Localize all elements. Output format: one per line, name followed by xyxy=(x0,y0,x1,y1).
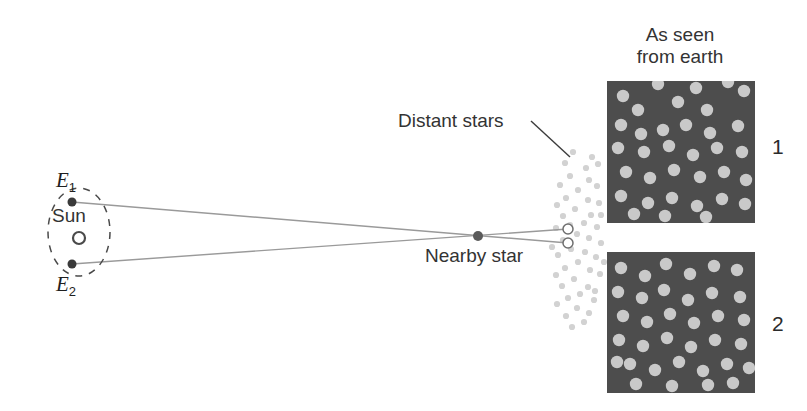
panel-star xyxy=(694,171,706,183)
panel-star xyxy=(636,292,648,304)
apparent-position-2-circle xyxy=(563,238,573,248)
panel-star xyxy=(743,362,755,374)
panel-star xyxy=(712,310,724,322)
panel-1-number-label: 1 xyxy=(772,135,784,159)
apparent-position-1-circle xyxy=(563,224,573,234)
panel-star xyxy=(617,90,629,102)
panel-star xyxy=(687,149,699,161)
panel-star xyxy=(649,364,661,376)
distant-star-dot xyxy=(567,173,573,179)
distant-star-dot xyxy=(593,254,599,260)
distant-star-dot xyxy=(554,202,560,208)
distant-star-dot xyxy=(581,220,587,226)
distant-star-dot xyxy=(595,161,601,167)
distant-star-dot xyxy=(596,200,602,206)
panel-star xyxy=(661,332,673,344)
distant-star-dot xyxy=(586,177,592,183)
panel-star xyxy=(632,104,644,116)
distant-star-dot xyxy=(592,288,598,294)
panel-star xyxy=(690,82,702,94)
distant-star-dot xyxy=(549,244,555,250)
panel-star xyxy=(731,264,743,276)
distant-star-dot xyxy=(587,267,593,273)
distant-star-dot xyxy=(601,259,607,265)
panel-star xyxy=(732,120,744,132)
panel-star xyxy=(684,268,696,280)
distant-star-dot xyxy=(559,283,565,289)
panel-star xyxy=(624,358,636,370)
distant-star-dot xyxy=(562,160,568,166)
nearby-star-label: Nearby star xyxy=(425,245,523,267)
panel-star xyxy=(658,284,670,296)
distant-star-dot xyxy=(555,252,561,258)
distant-star-dot xyxy=(589,154,595,160)
distant-star-dot xyxy=(597,271,603,277)
distant-star-dot xyxy=(562,265,568,271)
panel-star xyxy=(630,378,642,390)
earth-position-1-subscript: 1 xyxy=(69,180,76,195)
distant-star-dot xyxy=(565,295,571,301)
panel-star xyxy=(628,208,640,220)
panel-star xyxy=(612,142,624,154)
distant-star-dot xyxy=(569,324,575,330)
distant-star-dot xyxy=(572,206,578,212)
panel-star xyxy=(691,200,703,212)
panel-star xyxy=(740,174,752,186)
panel-star xyxy=(659,210,671,222)
panel-star xyxy=(722,76,734,88)
panel-star xyxy=(697,365,709,377)
panel-star xyxy=(738,314,750,326)
distant-star-dot xyxy=(598,240,604,246)
parallax-diagram-figure: As seen from earth Distant stars Nearby … xyxy=(0,0,807,411)
distant-star-dot xyxy=(554,301,560,307)
sun-marker xyxy=(73,232,85,244)
panel-star xyxy=(663,140,675,152)
distant-star-dot xyxy=(557,182,563,188)
distant-star-dot xyxy=(598,212,604,218)
panel-star xyxy=(708,260,720,272)
distant-star-dot xyxy=(560,213,566,219)
panel-star xyxy=(711,142,723,154)
earth-position-2-subscript: 2 xyxy=(69,284,76,299)
panel-star xyxy=(736,146,748,158)
distant-star-dot xyxy=(582,249,588,255)
distant-star-dot xyxy=(563,313,569,319)
nearby-star-dot xyxy=(473,231,483,241)
distant-star-dot xyxy=(585,284,591,290)
panel-star xyxy=(644,172,656,184)
distant-star-dot xyxy=(586,235,592,241)
distant-star-dot xyxy=(563,195,569,201)
distant-star-dot xyxy=(574,305,580,311)
distant-star-dot xyxy=(588,212,594,218)
panel-star xyxy=(635,128,647,140)
distant-star-dot xyxy=(583,165,589,171)
as-seen-from-earth-label: As seen from earth xyxy=(600,24,760,69)
panel-2-number-label: 2 xyxy=(772,312,784,336)
panel-1 xyxy=(607,76,755,223)
distant-star-dot xyxy=(581,319,587,325)
panel-star xyxy=(682,294,694,306)
panel-star xyxy=(613,334,625,346)
panel-star xyxy=(638,146,650,158)
distant-stars-leader-line xyxy=(531,121,570,157)
panel-star xyxy=(704,127,716,139)
sky-view-panels-group xyxy=(607,76,755,393)
panel-star xyxy=(734,291,746,303)
distant-stars-field xyxy=(549,149,607,330)
earth-position-2-dot xyxy=(68,260,77,269)
panel-star xyxy=(738,85,750,97)
panel-star xyxy=(615,119,627,131)
distant-star-dot xyxy=(570,149,576,155)
distant-star-dot xyxy=(571,276,577,282)
panel-star xyxy=(660,258,672,270)
panel-star xyxy=(652,78,664,90)
panel-star xyxy=(709,334,721,346)
panel-star xyxy=(611,356,623,368)
panel-star xyxy=(701,104,713,116)
earth-position-2-letter: E xyxy=(56,272,69,296)
distant-star-dot xyxy=(586,310,592,316)
panel-star xyxy=(668,164,680,176)
panel-star xyxy=(615,190,627,202)
panel-star xyxy=(702,379,714,391)
distant-star-dot xyxy=(594,224,600,230)
